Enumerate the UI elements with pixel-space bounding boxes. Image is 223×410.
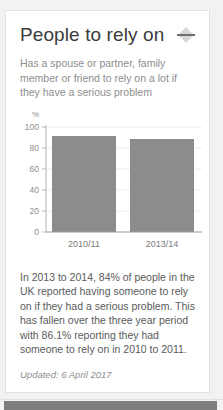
- bar-2013-14: [130, 139, 194, 232]
- chart-bars: [52, 136, 194, 232]
- collapse-expand-icon[interactable]: [173, 25, 199, 45]
- chart-ytick-0: 0: [34, 227, 39, 237]
- horizontal-scrollbar[interactable]: [0, 399, 223, 410]
- card-header: People to rely on: [6, 11, 209, 46]
- bar-chart: % 100 80 60 40 20 0 2010/11 2013/14: [6, 112, 209, 260]
- chart-ytick-80: 80: [30, 143, 40, 153]
- card-subtitle: Has a spouse or partner, family member o…: [20, 56, 195, 100]
- chart-ylabel: %: [32, 112, 39, 119]
- card-body-text: In 2013 to 2014, 84% of people in the UK…: [20, 270, 195, 357]
- scrollbar-thumb[interactable]: [4, 401, 217, 410]
- chart-ytick-100: 100: [25, 122, 39, 132]
- chart-xtick-2010-11: 2010/11: [68, 239, 100, 249]
- page-background: People to rely on Has a spouse or partne…: [0, 0, 223, 410]
- chart-ytick-40: 40: [30, 185, 40, 195]
- chart-ytick-60: 60: [30, 164, 40, 174]
- chart-y-ticks: [42, 127, 46, 232]
- bar-2010-11: [52, 136, 116, 232]
- stat-card: People to rely on Has a spouse or partne…: [5, 10, 210, 393]
- page-title: People to rely on: [20, 23, 195, 46]
- chart-xtick-2013-14: 2013/14: [146, 239, 179, 249]
- updated-timestamp: Updated: 6 April 2017: [20, 368, 195, 381]
- chart-ytick-20: 20: [30, 206, 40, 216]
